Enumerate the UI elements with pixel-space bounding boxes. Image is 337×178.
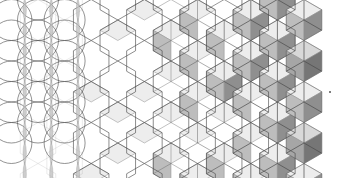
illustration-canvas: Circle to hexagon to isometric cube tess… <box>0 0 337 178</box>
geometric-progression-figure <box>0 0 337 178</box>
corner-speck <box>329 91 331 93</box>
annotation-layer <box>329 91 331 93</box>
